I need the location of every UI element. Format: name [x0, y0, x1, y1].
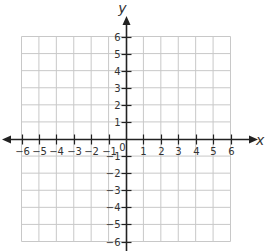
x-axis-title: x: [255, 132, 265, 148]
x-tick-label: 2: [158, 146, 164, 157]
y-axis-title: y: [117, 0, 127, 16]
y-tick-label: 3: [114, 83, 120, 94]
x-tick-label: −2: [84, 146, 99, 157]
y-tick-label: 6: [114, 32, 120, 43]
x-axis-left-arrow-icon: [2, 136, 11, 144]
x-tick-label: 4: [193, 146, 199, 157]
axes: [2, 16, 258, 251]
y-tick-label: −5: [106, 219, 121, 230]
origin-label: 0: [119, 142, 125, 153]
x-tick-label: −4: [49, 146, 64, 157]
y-axis-up-arrow-icon: [123, 16, 131, 25]
x-tick-label: 1: [140, 146, 146, 157]
x-tick-label: 5: [210, 146, 216, 157]
x-tick-label: 6: [228, 146, 234, 157]
y-tick-label: −2: [106, 168, 121, 179]
y-tick-label: 1: [114, 117, 120, 128]
coordinate-plane: −6−5−4−3−2−1123456−6−5−4−3−2−1123456 x y…: [0, 0, 265, 251]
y-tick-label: −1: [106, 151, 121, 162]
y-tick-label: −6: [106, 237, 121, 248]
y-tick-label: 5: [114, 49, 120, 60]
y-tick-label: 2: [114, 100, 120, 111]
y-tick-label: −4: [106, 202, 121, 213]
x-tick-label: −5: [32, 146, 47, 157]
x-tick-label: −3: [67, 146, 82, 157]
y-tick-label: −3: [106, 185, 121, 196]
x-tick-label: 3: [175, 146, 181, 157]
y-tick-label: 4: [114, 66, 120, 77]
x-tick-label: −6: [15, 146, 30, 157]
